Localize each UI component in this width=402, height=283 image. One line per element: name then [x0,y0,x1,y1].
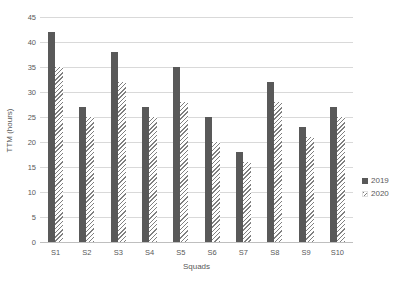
x-tick-label-S10: S10 [322,248,353,257]
bar-2019-S3 [111,52,118,242]
legend-label-2020: 2020 [371,190,389,198]
legend-item-2019: 2019 [362,177,389,185]
bar-group-S2 [71,18,102,242]
x-axis-category-labels: S1S2S3S4S5S6S7S8S9S10 [40,248,353,257]
y-tick-label-40: 40 [0,39,36,47]
bar-group-S10 [322,18,353,242]
bar-group-S8 [259,18,290,242]
y-tick-label-30: 30 [0,89,36,97]
bar-2020-S1 [55,67,63,242]
y-tick-label-20: 20 [0,139,36,147]
legend-marker-2019-icon [362,178,368,184]
bar-2020-S9 [306,137,314,242]
x-tick-label-S4: S4 [134,248,165,257]
legend-marker-2020-icon [362,191,368,197]
x-tick-label-S6: S6 [196,248,227,257]
bar-2020-S4 [149,117,157,242]
y-tick-label-0: 0 [0,239,36,247]
x-tick-label-S3: S3 [103,248,134,257]
y-tick-label-35: 35 [0,64,36,72]
bar-group-S3 [103,18,134,242]
bar-2020-S5 [180,102,188,242]
bar-2019-S2 [79,107,86,242]
bar-2020-S2 [86,117,94,242]
x-tick-label-S5: S5 [165,248,196,257]
bar-group-S5 [165,18,196,242]
bar-2019-S6 [205,117,212,242]
x-tick-label-S8: S8 [259,248,290,257]
bar-2019-S4 [142,107,149,242]
bar-group-S4 [134,18,165,242]
x-tick-label-S1: S1 [40,248,71,257]
bar-2019-S9 [299,127,306,242]
bar-2019-S7 [236,152,243,242]
plot-area [40,18,353,243]
bar-2019-S8 [267,82,274,242]
bar-2020-S6 [212,142,220,242]
y-tick-label-15: 15 [0,164,36,172]
bar-2020-S10 [337,117,345,242]
bar-chart: TTM (hours) 051015202530354045 S1S2S3S4S… [0,0,402,283]
bar-group-S1 [40,18,71,242]
y-tick-label-45: 45 [0,14,36,22]
y-tick-label-25: 25 [0,114,36,122]
bar-group-S6 [196,18,227,242]
y-tick-label-5: 5 [0,214,36,222]
bar-2019-S10 [330,107,337,242]
y-tick-label-10: 10 [0,189,36,197]
x-axis-title: Squads [40,262,353,271]
x-tick-label-S9: S9 [290,248,321,257]
x-tick-label-S2: S2 [71,248,102,257]
y-axis-tick-labels: 051015202530354045 [0,18,36,243]
x-tick-label-S7: S7 [228,248,259,257]
bar-group-S9 [290,18,321,242]
legend-label-2019: 2019 [371,177,389,185]
bar-2020-S8 [274,102,282,242]
bar-group-S7 [228,18,259,242]
bar-2019-S1 [48,32,55,242]
legend-item-2020: 2020 [362,190,389,198]
bar-2019-S5 [173,67,180,242]
bar-2020-S3 [118,82,126,242]
legend: 20192020 [362,177,389,198]
bar-2020-S7 [243,162,251,242]
